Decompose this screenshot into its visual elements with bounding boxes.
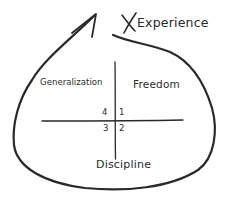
diagram-canvas: Experience Generalization Freedom Discip… [0, 0, 227, 199]
experience-label: Experience [137, 17, 209, 30]
quadrant-3-number: 3 [103, 124, 109, 133]
freedom-label: Freedom [133, 79, 180, 90]
vertical-axis-line [115, 62, 116, 159]
discipline-label: Discipline [96, 159, 151, 170]
horizontal-axis-line [42, 120, 183, 121]
x-mark-icon [122, 13, 136, 33]
quadrant-2-number: 2 [119, 124, 125, 133]
generalization-label: Generalization [40, 78, 103, 87]
quadrant-4-number: 4 [102, 108, 108, 117]
quadrant-1-number: 1 [119, 108, 125, 117]
